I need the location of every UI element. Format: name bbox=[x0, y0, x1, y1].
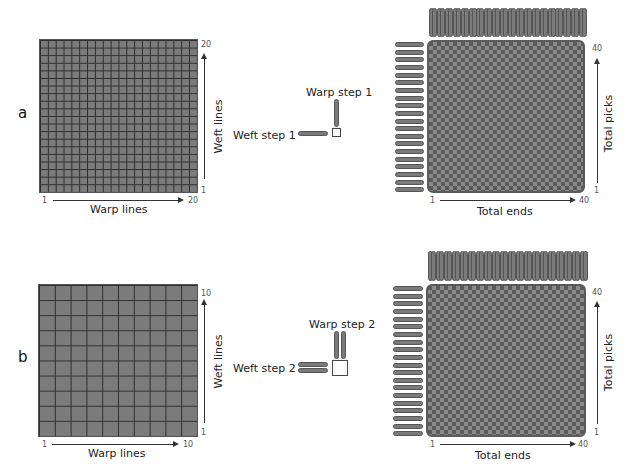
y-axis-label-b: Weft lines bbox=[212, 322, 225, 402]
x-tick-end-fabric-a: 40 bbox=[579, 196, 589, 205]
y-tick-start-fabric-a: 1 bbox=[594, 186, 599, 195]
arrow-up-icon bbox=[201, 299, 207, 305]
weft-yarn-icon bbox=[393, 370, 423, 375]
x-tick-end-fabric-b: 40 bbox=[578, 440, 588, 449]
arrow-right-icon bbox=[570, 197, 576, 203]
y-axis-label-fabric-b: Total picks bbox=[602, 323, 615, 403]
weft-yarn-icon bbox=[393, 286, 423, 291]
x-axis-line-fabric-a bbox=[440, 200, 570, 201]
weft-yarn-icon bbox=[395, 111, 424, 116]
y-axis-line-fabric-b bbox=[597, 306, 598, 424]
weft-yarn-icon bbox=[393, 294, 423, 299]
x-tick-end-b: 10 bbox=[183, 440, 193, 449]
warp-step-label-b: Warp step 2 bbox=[309, 318, 375, 331]
arrow-right-icon bbox=[173, 441, 179, 447]
weft-yarn-icon bbox=[393, 332, 423, 337]
y-tick-start-a: 1 bbox=[201, 186, 206, 195]
unit-cell-icon bbox=[332, 360, 348, 376]
weft-yarn-icon bbox=[395, 57, 424, 62]
warp-yarn-icon bbox=[334, 331, 339, 359]
x-axis-label-a: Warp lines bbox=[90, 203, 148, 216]
arrow-up-icon bbox=[594, 58, 600, 64]
weft-step-label-a: Weft step 1 bbox=[233, 129, 296, 142]
weft-yarn-icon bbox=[393, 401, 423, 406]
weft-yarn-icon bbox=[298, 362, 328, 367]
x-tick-start-fabric-a: 1 bbox=[430, 196, 435, 205]
warp-yarn-icon bbox=[456, 8, 461, 37]
y-tick-start-b: 1 bbox=[201, 428, 206, 437]
x-tick-end-a: 20 bbox=[188, 196, 198, 205]
x-axis-line-fabric-b bbox=[440, 444, 570, 445]
warp-yarn-icon bbox=[582, 8, 587, 37]
weft-yarn-icon bbox=[393, 424, 423, 429]
arrow-up-icon bbox=[201, 53, 207, 59]
arrow-right-icon bbox=[178, 197, 184, 203]
weft-yarn-icon bbox=[393, 363, 423, 368]
weft-yarn-icon bbox=[395, 157, 424, 162]
weft-yarn-icon bbox=[395, 126, 424, 131]
weft-yarn-icon bbox=[393, 340, 423, 345]
weft-yarn-icon bbox=[395, 65, 424, 70]
y-axis-label-fabric-a: Total picks bbox=[602, 84, 615, 164]
weft-yarn-icon bbox=[395, 180, 424, 185]
x-axis-label-fabric-a: Total ends bbox=[477, 205, 533, 218]
weft-yarn-icon bbox=[395, 172, 424, 177]
weft-yarn-icon bbox=[395, 103, 424, 108]
y-tick-end-fabric-a: 40 bbox=[592, 44, 602, 53]
warp-yarn-icon bbox=[334, 99, 339, 127]
weft-yarn-icon bbox=[393, 393, 423, 398]
x-tick-start-a: 1 bbox=[42, 196, 47, 205]
warp-yarn-icon bbox=[543, 8, 548, 37]
weft-yarn-icon bbox=[395, 119, 424, 124]
weft-yarn-icon bbox=[395, 88, 424, 93]
weft-yarn-icon bbox=[393, 378, 423, 383]
y-tick-start-fabric-b: 1 bbox=[594, 428, 599, 437]
x-axis-line-a bbox=[53, 200, 178, 201]
weft-yarn-icon bbox=[393, 355, 423, 360]
weft-yarn-icon bbox=[393, 416, 423, 421]
weft-yarn-icon bbox=[393, 324, 423, 329]
weft-yarn-icon bbox=[395, 42, 424, 47]
design-grid-a bbox=[39, 39, 198, 193]
weft-step-label-b: Weft step 2 bbox=[233, 362, 296, 375]
weft-yarn-icon bbox=[393, 347, 423, 352]
x-axis-label-fabric-b: Total ends bbox=[475, 449, 531, 462]
warp-yarn-icon bbox=[464, 8, 469, 37]
weft-yarn-icon bbox=[393, 408, 423, 413]
arrow-up-icon bbox=[594, 301, 600, 307]
weft-yarn-icon bbox=[395, 50, 424, 55]
weft-yarn-icon bbox=[393, 385, 423, 390]
weft-yarn-icon bbox=[395, 73, 424, 78]
x-axis-label-b: Warp lines bbox=[88, 447, 146, 460]
design-grid-b bbox=[38, 284, 198, 437]
weft-yarn-icon bbox=[395, 141, 424, 146]
weft-yarn-icon bbox=[395, 134, 424, 139]
x-axis-line-b bbox=[52, 444, 173, 445]
unit-cell-icon bbox=[332, 128, 341, 137]
weft-yarn-icon bbox=[393, 317, 423, 322]
y-axis-line-a bbox=[204, 57, 205, 179]
weft-yarn-icon bbox=[395, 80, 424, 85]
warp-yarn-icon bbox=[535, 8, 540, 37]
x-tick-start-fabric-b: 1 bbox=[430, 440, 435, 449]
weft-yarn-icon bbox=[298, 368, 328, 373]
woven-fabric-a bbox=[427, 40, 585, 193]
y-axis-line-b bbox=[204, 303, 205, 423]
panel-label-b: b bbox=[18, 348, 28, 366]
warp-yarn-icon bbox=[341, 331, 346, 359]
weft-yarn-icon bbox=[393, 309, 423, 314]
woven-fabric-b bbox=[426, 284, 586, 437]
warp-yarn-icon bbox=[583, 251, 588, 281]
y-tick-end-b: 10 bbox=[201, 289, 211, 298]
y-axis-line-fabric-a bbox=[597, 63, 598, 183]
y-tick-end-a: 20 bbox=[201, 40, 211, 49]
weft-yarn-icon bbox=[395, 149, 424, 154]
weft-yarn-icon bbox=[393, 301, 423, 306]
weft-yarn-icon bbox=[393, 431, 423, 436]
y-tick-end-fabric-b: 40 bbox=[592, 288, 602, 297]
x-tick-start-b: 1 bbox=[42, 440, 47, 449]
y-axis-label-a: Weft lines bbox=[212, 87, 225, 167]
weft-yarn-icon bbox=[395, 96, 424, 101]
arrow-right-icon bbox=[570, 441, 576, 447]
weft-yarn-icon bbox=[395, 187, 424, 192]
